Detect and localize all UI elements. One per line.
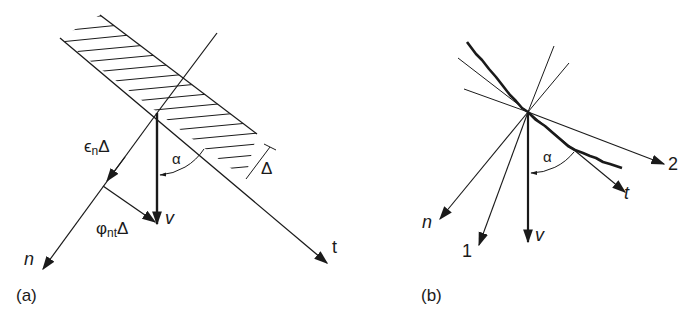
- alpha-label: α: [172, 150, 181, 167]
- alpha-arc: [160, 149, 204, 175]
- axis-1: [479, 112, 528, 245]
- phi-label: φntΔ: [96, 219, 128, 240]
- line-upper-left-1: [458, 58, 528, 112]
- line-upper-left-2: [464, 89, 528, 112]
- axis-n: [440, 112, 528, 219]
- line-upper-right-2: [528, 63, 569, 112]
- phi-vector: [103, 186, 155, 222]
- axis-1-label: 1: [462, 241, 472, 261]
- caption-b: (b): [421, 286, 442, 305]
- band-upper-edge: [100, 15, 257, 134]
- axis-2-label: 2: [668, 154, 678, 174]
- v-label-b: v: [535, 225, 545, 245]
- n-label-b: n: [422, 212, 432, 232]
- v-label: v: [165, 208, 175, 228]
- alpha-label-b: α: [543, 148, 552, 165]
- n-axis-upper: [157, 33, 217, 113]
- epsilon-arrow: [107, 157, 125, 181]
- figure-canvas: ϵnΔ α Δ φntΔ v n t (a) α n 1 v t 2 (: [0, 0, 697, 326]
- delta-label: Δ: [261, 159, 272, 178]
- t-label-b: t: [624, 183, 630, 203]
- epsilon-label: ϵnΔ: [84, 137, 110, 158]
- panel-b: α n 1 v t 2 (b): [421, 42, 678, 305]
- n-label: n: [24, 249, 34, 269]
- t-label: t: [332, 237, 337, 257]
- delta-tick: [264, 144, 276, 150]
- line-upper-right-1: [528, 46, 554, 112]
- panel-a: ϵnΔ α Δ φntΔ v n t (a): [16, 10, 337, 305]
- alpha-arc-b: [531, 152, 574, 173]
- caption-a: (a): [16, 286, 37, 305]
